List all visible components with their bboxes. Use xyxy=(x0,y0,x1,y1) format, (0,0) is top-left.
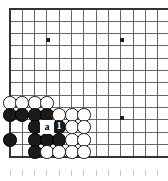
star-point xyxy=(120,38,124,42)
point-label-a[interactable]: a xyxy=(40,120,53,133)
stone-black[interactable] xyxy=(3,133,16,146)
stone-white[interactable] xyxy=(77,145,90,158)
stone-black-marked[interactable]: 1 xyxy=(52,120,65,133)
stone-white[interactable] xyxy=(77,120,90,133)
star-point xyxy=(46,38,50,42)
stone-black[interactable] xyxy=(15,108,28,121)
go-diagram: 1 a xyxy=(0,0,168,181)
star-point xyxy=(120,116,124,120)
move-number-label: 1 xyxy=(56,121,61,131)
stone-white[interactable] xyxy=(52,145,65,158)
